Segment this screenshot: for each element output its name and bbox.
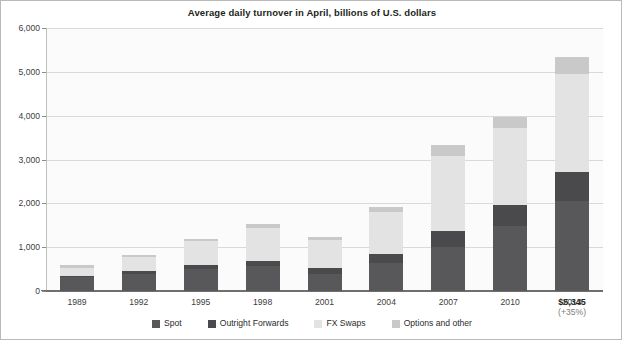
bar-segment-fx-swaps[interactable]	[122, 257, 156, 271]
bar-segment-spot[interactable]	[122, 274, 156, 291]
y-axis-tick-label: 0	[2, 286, 40, 296]
y-axis-tick-label: 5,000	[2, 67, 40, 77]
y-axis-tick-label: 3,000	[2, 155, 40, 165]
bar-stack[interactable]	[60, 265, 94, 291]
bar-segment-fx-swaps[interactable]	[555, 74, 589, 172]
bar-segment-outright-forwards[interactable]	[369, 254, 403, 263]
bar-segment-fx-swaps[interactable]	[60, 268, 94, 276]
bar-segment-fx-swaps[interactable]	[431, 156, 465, 231]
bar-segment-fx-swaps[interactable]	[308, 240, 342, 269]
y-axis-tick-mark	[42, 291, 46, 292]
legend-swatch	[208, 320, 216, 328]
bar-stack[interactable]	[184, 239, 218, 291]
bar-segment-fx-swaps[interactable]	[246, 228, 280, 260]
x-axis-tick-label: 1989	[48, 297, 106, 307]
legend-swatch	[152, 320, 160, 328]
bar-stack[interactable]	[122, 255, 156, 291]
bar-stack[interactable]	[431, 145, 465, 291]
bar-stack[interactable]	[308, 237, 342, 291]
legend-label: Spot	[164, 319, 182, 328]
legend-label: Outright Forwards	[220, 319, 289, 328]
x-axis-tick-label: 1998	[234, 297, 292, 307]
bar-segment-outright-forwards[interactable]	[555, 172, 589, 202]
legend-item-fx-swaps[interactable]: FX Swaps	[314, 319, 365, 328]
bar-segment-outright-forwards[interactable]	[431, 231, 465, 247]
bar-segment-options-and-other[interactable]	[431, 145, 465, 156]
legend-swatch	[392, 320, 400, 328]
x-axis-tick-label: 2013	[543, 297, 601, 307]
bar-stack[interactable]	[369, 207, 403, 291]
legend-label: FX Swaps	[326, 319, 365, 328]
legend-item-options-and-other[interactable]: Options and other	[392, 319, 472, 328]
bar-segment-spot[interactable]	[184, 269, 218, 291]
bar-segment-spot[interactable]	[369, 263, 403, 291]
bar-segment-spot[interactable]	[308, 274, 342, 291]
chart-legend: SpotOutright ForwardsFX SwapsOptions and…	[1, 319, 622, 328]
x-axis-tick-label: 2007	[419, 297, 477, 307]
y-axis-tick-label: 4,000	[2, 111, 40, 121]
x-axis-tick-label: 2010	[481, 297, 539, 307]
bar-segment-spot[interactable]	[493, 226, 527, 291]
x-axis-tick-label: 1992	[110, 297, 168, 307]
x-axis-tick-label: 2004	[357, 297, 415, 307]
plot-area: 01,0002,0003,0004,0005,0006,000 $590$820…	[46, 28, 603, 291]
bar-stack[interactable]	[246, 224, 280, 291]
bar-segment-fx-swaps[interactable]	[493, 128, 527, 205]
y-axis-tick-label: 6,000	[2, 23, 40, 33]
bar-segment-spot[interactable]	[60, 277, 94, 291]
bar-segment-options-and-other[interactable]	[555, 57, 589, 74]
bar-stack[interactable]	[493, 117, 527, 291]
bar-segment-outright-forwards[interactable]	[493, 205, 527, 226]
legend-item-spot[interactable]: Spot	[152, 319, 182, 328]
x-axis-tick-label: 1995	[172, 297, 230, 307]
bar-segment-fx-swaps[interactable]	[184, 241, 218, 265]
bar-stack[interactable]	[555, 57, 589, 291]
legend-swatch	[314, 320, 322, 328]
chart-title: Average daily turnover in April, billion…	[1, 7, 622, 18]
legend-label: Options and other	[404, 319, 472, 328]
x-axis-tick-label: 2001	[296, 297, 354, 307]
bar-segment-options-and-other[interactable]	[493, 117, 527, 128]
gridline	[46, 291, 603, 292]
chart-container: Average daily turnover in April, billion…	[0, 0, 622, 340]
bar-segment-spot[interactable]	[246, 266, 280, 291]
y-axis-tick-label: 2,000	[2, 198, 40, 208]
bar-segment-fx-swaps[interactable]	[369, 212, 403, 254]
bar-segment-spot[interactable]	[431, 247, 465, 291]
bar-series-layer: $590$820(+39%)$1,190(+45%)$1,527(+28%)$1…	[46, 28, 603, 291]
legend-item-outright-forwards[interactable]: Outright Forwards	[208, 319, 289, 328]
y-axis-tick-label: 1,000	[2, 242, 40, 252]
bar-segment-spot[interactable]	[555, 201, 589, 291]
bar-change-label: (+35%)	[543, 307, 601, 317]
